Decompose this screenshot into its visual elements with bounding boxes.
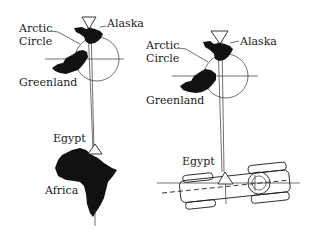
alaska-shape-left <box>74 27 103 44</box>
alaska-shape-right <box>203 41 233 61</box>
label-alaska-right: Alaska <box>239 35 277 48</box>
pointer-line-right-b <box>222 42 224 172</box>
top-triangle-marker-right <box>211 31 228 44</box>
diagram-canvas: Alaska Arctic Circle Greenland Egypt Afr… <box>0 0 313 239</box>
egypt-triangle-marker-left <box>88 144 102 154</box>
label-arctic-right-1: Arctic <box>145 39 179 52</box>
alaska-leader-left <box>100 26 106 27</box>
pointer-line-right-a <box>218 42 222 172</box>
label-egypt-right: Egypt <box>182 155 215 168</box>
arctic-circle-leader-right <box>178 48 208 62</box>
label-arctic-left-1: Arctic <box>18 22 52 35</box>
label-arctic-left-2: Circle <box>19 35 52 48</box>
tablet-tab-top-right <box>248 162 287 174</box>
greenland-shape-left <box>52 50 88 74</box>
egypt-triangle-marker-right <box>218 172 233 184</box>
label-africa: Africa <box>44 184 79 197</box>
top-triangle-marker-left <box>82 17 96 29</box>
tablet-tab-bottom-left <box>185 199 216 209</box>
alaska-leader-right <box>230 41 239 43</box>
africa-shape-left <box>55 148 117 217</box>
label-greenland-right: Greenland <box>146 94 204 107</box>
label-greenland-left: Greenland <box>19 76 77 89</box>
label-egypt-left: Egypt <box>53 132 86 145</box>
left-panel: Alaska Arctic Circle Greenland Egypt Afr… <box>18 17 144 226</box>
label-arctic-right-2: Circle <box>146 52 179 65</box>
greenland-shape-right <box>180 69 216 93</box>
label-alaska-left: Alaska <box>106 17 144 30</box>
egypt-mechanism <box>157 162 300 211</box>
arctic-circle-leader-left <box>50 31 80 44</box>
right-panel: Alaska Arctic Circle Greenland Egypt <box>145 31 300 211</box>
